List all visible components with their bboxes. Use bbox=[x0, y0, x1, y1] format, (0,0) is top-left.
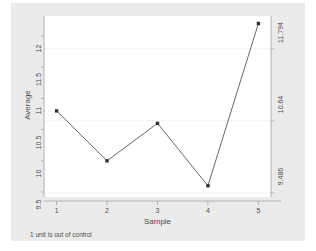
x-axis-tick-label: 5 bbox=[248, 207, 268, 214]
series-line-average bbox=[57, 23, 259, 185]
y-axis-title: Average bbox=[24, 83, 32, 127]
y-axis-right-tick-label: 9.486 bbox=[277, 161, 284, 191]
x-axis-title: Sample bbox=[118, 218, 198, 226]
y-axis-left-tick-label: 10 bbox=[35, 159, 42, 187]
y-axis-left-tick-label: 10.5 bbox=[35, 128, 42, 156]
x-axis-ticks bbox=[57, 201, 259, 205]
data-point-marker bbox=[156, 122, 159, 125]
series-markers-average bbox=[55, 22, 260, 188]
y-axis-left-tick-label: 11.5 bbox=[35, 66, 42, 94]
data-point-marker bbox=[257, 22, 260, 25]
y-axis-left-tick-label: 9.5 bbox=[35, 191, 42, 219]
data-point-marker bbox=[206, 184, 209, 187]
x-axis-tick-label: 1 bbox=[47, 207, 67, 214]
data-point-marker bbox=[105, 159, 108, 162]
x-axis-tick-label: 3 bbox=[148, 207, 168, 214]
control-chart: 1211.51110.5109.5 11.79410.649.486 12345… bbox=[0, 0, 316, 251]
control-limit-gridlines bbox=[44, 49, 271, 193]
y-axis-right-tick-label: 10.64 bbox=[277, 89, 284, 119]
y-axis-right-tick-label: 11.794 bbox=[277, 17, 284, 47]
x-axis-tick-label: 4 bbox=[198, 207, 218, 214]
y-axis-left-tick-label: 11 bbox=[35, 97, 42, 125]
data-point-marker bbox=[55, 109, 58, 112]
out-of-control-note: 1 unit is out of control bbox=[30, 232, 92, 239]
x-axis-tick-label: 2 bbox=[97, 207, 117, 214]
y-axis-left-tick-label: 12 bbox=[35, 34, 42, 62]
